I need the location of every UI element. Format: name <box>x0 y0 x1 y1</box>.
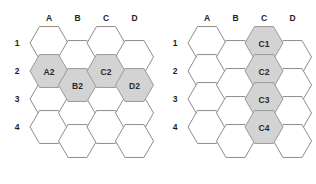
column-header-c: C <box>261 13 267 23</box>
row-header-1: 1 <box>173 38 178 48</box>
hex-grid-panel-left: ABCD1234A2B2C2D2 <box>0 0 158 184</box>
hex-cell-label: C4 <box>259 123 270 133</box>
hex-cell-label: D2 <box>129 81 140 91</box>
hex-cell-label: C2 <box>101 67 112 77</box>
row-header-3: 3 <box>173 94 178 104</box>
row-header-4: 4 <box>173 122 178 132</box>
hex-cell-label: A2 <box>44 67 55 77</box>
row-header-2: 2 <box>173 66 178 76</box>
column-header-b: B <box>232 13 238 23</box>
hex-cell-label: B2 <box>72 81 83 91</box>
hex-cell-label: C1 <box>259 39 270 49</box>
hex-grid-right-svg: ABCD1234C1C2C3C4 <box>158 0 316 184</box>
row-header-3: 3 <box>15 94 20 104</box>
column-header-d: D <box>131 13 137 23</box>
figure-root: ABCD1234A2B2C2D2 ABCD1234C1C2C3C4 <box>0 0 316 184</box>
hex-grid-panel-right: ABCD1234C1C2C3C4 <box>158 0 316 184</box>
column-header-a: A <box>204 13 210 23</box>
column-header-d: D <box>289 13 295 23</box>
row-header-1: 1 <box>15 38 20 48</box>
hex-grid-left-svg: ABCD1234A2B2C2D2 <box>0 0 158 184</box>
column-header-b: B <box>74 13 80 23</box>
hex-cell-label: C3 <box>259 95 270 105</box>
row-header-4: 4 <box>15 122 20 132</box>
row-header-2: 2 <box>15 66 20 76</box>
column-header-a: A <box>46 13 52 23</box>
column-header-c: C <box>103 13 109 23</box>
hex-cell-label: C2 <box>259 67 270 77</box>
